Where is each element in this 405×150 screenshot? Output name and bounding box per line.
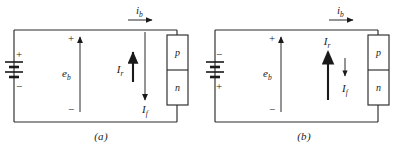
pn-junction-device-b [368,35,389,105]
reverse-current-subscript-b: r [327,41,330,50]
p-region-label-b: p [375,47,381,58]
battery-minus-sign-a: − [16,80,22,92]
circuit-a-canvas: + − ib + − eb If Ir [0,0,202,150]
n-region-label-a: n [175,82,180,93]
reverse-current-label-b: Ir [323,35,331,50]
battery-plus-sign-a: + [16,48,22,60]
loop-current-label-b: ib [337,4,344,19]
n-region-label-b: n [376,82,381,93]
forward-current-label-a: If [141,103,149,118]
p-region-label-a: p [174,47,180,58]
source-plus-sign-b: + [269,32,275,44]
circuit-figure: + − ib + − eb If Ir [0,0,405,150]
source-minus-sign-a: − [68,103,74,115]
loop-current-label-a: ib [136,4,143,19]
source-voltage-label-a: eb [62,67,71,82]
circuit-b-canvas: − + ib + − eb Ir If [203,0,405,150]
forward-current-subscript-a: f [146,109,149,118]
source-minus-sign-b: − [269,103,275,115]
pn-junction-device-a [167,35,188,105]
reverse-current-label-a: Ir [116,63,124,78]
battery-plus-sign-b: + [216,80,222,92]
source-voltage-label-b: eb [263,67,272,82]
circuit-panel-a: + − ib + − eb If Ir [0,0,202,150]
panel-caption-b: (b) [203,130,405,142]
battery-minus-sign-b: − [216,48,222,60]
forward-current-label-b: If [341,82,349,97]
source-voltage-subscript-a: b [67,73,71,82]
source-plus-sign-a: + [68,32,74,44]
loop-current-subscript-b: b [340,10,344,19]
panel-caption-a: (a) [0,130,202,142]
loop-current-subscript-a: b [139,10,143,19]
reverse-current-subscript-a: r [120,69,123,78]
circuit-panel-b: − + ib + − eb Ir If [203,0,405,150]
source-voltage-subscript-b: b [268,73,272,82]
forward-current-subscript-b: f [346,88,349,97]
